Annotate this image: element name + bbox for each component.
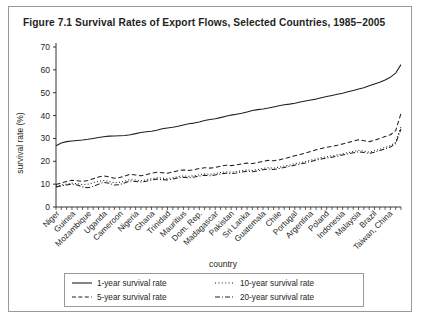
y-tick-label: 70 (41, 42, 51, 52)
figure-frame: Figure 7.1 Survival Rates of Export Flow… (8, 6, 412, 312)
series-line (56, 65, 401, 146)
y-tick-label: 40 (41, 111, 51, 121)
legend-entry: 5-year survival rate (71, 290, 214, 304)
legend-swatch-solid (71, 279, 93, 287)
legend-entry: 1-year survival rate (71, 276, 214, 290)
y-tick-label: 30 (41, 133, 51, 143)
survival-rate-line-chart: 010203040506070 NigerGuineaMozambiqueUga… (9, 31, 413, 275)
x-tick-labels: NigerGuineaMozambiqueUgandaCameroonNiger… (41, 209, 395, 252)
legend-swatch-dashed (71, 293, 93, 301)
figure-title: Figure 7.1 Survival Rates of Export Flow… (23, 17, 403, 28)
y-tick-label: 50 (41, 88, 51, 98)
chart-plot-area: 010203040506070 NigerGuineaMozambiqueUga… (9, 31, 413, 275)
y-tick-label: 0 (45, 202, 50, 212)
data-series-group (56, 65, 401, 188)
legend-label: 10-year survival rate (240, 279, 314, 288)
x-axis-title: country (209, 259, 238, 269)
y-tick-label: 20 (41, 156, 51, 166)
legend-swatch-dashdot (214, 293, 236, 301)
legend-entry: 20-year survival rate (214, 290, 357, 304)
legend-label: 5-year survival rate (97, 293, 167, 302)
y-axis-title: survival rate (%) (15, 112, 25, 174)
series-line (56, 129, 401, 188)
legend-label: 1-year survival rate (97, 279, 167, 288)
legend-swatch-dotted (214, 279, 236, 287)
y-tick-label: 10 (41, 179, 51, 189)
y-tick-label: 60 (41, 65, 51, 75)
legend-label: 20-year survival rate (240, 293, 314, 302)
legend-entry: 10-year survival rate (214, 276, 357, 290)
y-axis: 010203040506070 (41, 42, 56, 212)
series-line (56, 113, 401, 184)
chart-legend: 1-year survival rate 10-year survival ra… (64, 273, 364, 307)
